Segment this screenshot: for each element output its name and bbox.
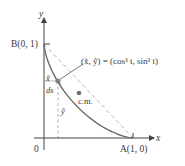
x-axis-label: x bbox=[155, 133, 161, 143]
ds-label: ds bbox=[46, 85, 54, 95]
leader-line bbox=[59, 64, 83, 80]
origin-label: 0 bbox=[34, 144, 39, 154]
y-tilde-label: ỹ bbox=[60, 106, 65, 116]
center-of-mass-point bbox=[77, 91, 82, 96]
center-of-mass-label: c.m. bbox=[78, 96, 93, 106]
astroid-diagram: y x 0 B(0, 1) A(1, 0) (x̃, ỹ) = (cos³ t,… bbox=[0, 0, 185, 166]
x-tilde-label: x̃ bbox=[45, 73, 51, 83]
y-axis-label: y bbox=[38, 9, 44, 19]
point-b-label: B(0, 1) bbox=[11, 39, 38, 50]
parametric-label: (x̃, ỹ) = (cos³ t, sin³ t) bbox=[81, 56, 158, 66]
point-a-label: A(1, 0) bbox=[120, 144, 147, 155]
